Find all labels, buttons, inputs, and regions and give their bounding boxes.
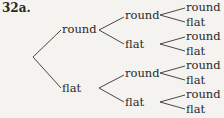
- leaf-frr: round: [186, 59, 221, 71]
- node-flat: flat: [62, 82, 81, 94]
- leaf-rrr: round: [186, 1, 221, 13]
- node-round-round: round: [125, 9, 160, 21]
- leaf-rff: flat: [186, 45, 205, 57]
- leaf-ffr: round: [186, 88, 221, 100]
- node-flat-flat: flat: [125, 96, 144, 108]
- leaf-rfr: round: [186, 30, 221, 42]
- leaf-fff: flat: [186, 103, 205, 115]
- leaf-frf: flat: [186, 74, 205, 86]
- node-round: round: [62, 23, 97, 35]
- leaf-rrf: flat: [186, 16, 205, 28]
- node-flat-round: round: [125, 67, 160, 79]
- node-round-flat: flat: [125, 38, 144, 50]
